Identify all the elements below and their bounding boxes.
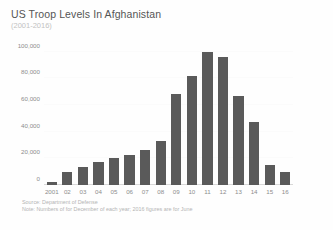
x-axis-tick-label: 08 <box>157 188 164 195</box>
bar-slot: 10 <box>184 45 200 185</box>
x-axis-tick-label: 13 <box>235 188 242 195</box>
x-axis-tick-label: 07 <box>142 188 149 195</box>
footnotes: Source: Department of Defense Note: Numb… <box>22 199 193 214</box>
bar-slot: 07 <box>137 45 153 185</box>
x-axis-tick-label: 14 <box>251 188 258 195</box>
bar-slot: 12 <box>215 45 231 185</box>
bar <box>171 94 181 185</box>
method-note: Note: Numbers of for December of each ye… <box>22 206 193 213</box>
bar-slot: 11 <box>200 45 216 185</box>
bar-slot: 15 <box>262 45 278 185</box>
x-axis-tick-label: 09 <box>173 188 180 195</box>
x-axis-tick-label: 02 <box>64 188 71 195</box>
y-axis-tick-label: 100,000 <box>18 41 40 48</box>
y-axis-tick-label: 80,000 <box>21 68 40 75</box>
bar <box>218 57 228 185</box>
x-axis-tick-label: 10 <box>188 188 195 195</box>
y-axis-tick-label: 20,000 <box>21 148 40 155</box>
chart-subtitle: (2001-2016) <box>11 21 52 30</box>
y-axis-tick-label: 60,000 <box>21 95 40 102</box>
bar-slot: 06 <box>122 45 138 185</box>
x-axis-tick-label: 04 <box>95 188 102 195</box>
bar-slot: 08 <box>153 45 169 185</box>
bar-slot: 2001 <box>44 45 60 185</box>
bar-series: 2001020304050607080910111213141516 <box>44 45 293 185</box>
bar <box>202 52 212 185</box>
y-axis-tick-label: 0 <box>37 175 40 182</box>
bar <box>93 162 103 185</box>
x-axis-tick-label: 11 <box>204 188 210 195</box>
bar <box>78 167 88 185</box>
bar <box>265 165 275 185</box>
bar <box>156 141 166 185</box>
bar-slot: 09 <box>169 45 185 185</box>
bar <box>124 155 134 185</box>
x-axis-tick-label: 06 <box>126 188 133 195</box>
bar <box>47 182 57 185</box>
plot-area: 020,00040,00060,00080,000100,000 2001020… <box>44 45 293 185</box>
bar <box>249 122 259 185</box>
x-axis-tick-label: 05 <box>111 188 118 195</box>
x-axis-tick-label: 15 <box>266 188 273 195</box>
x-axis-tick-label: 16 <box>282 188 289 195</box>
source-note: Source: Department of Defense <box>22 199 193 206</box>
x-axis-tick-label: 2001 <box>45 188 59 195</box>
x-axis-tick-label: 03 <box>79 188 86 195</box>
bar <box>280 172 290 185</box>
bar-slot: 16 <box>277 45 293 185</box>
bar-slot: 13 <box>231 45 247 185</box>
bar-slot: 05 <box>106 45 122 185</box>
chart-title: US Troop Levels In Afghanistan <box>11 8 161 20</box>
bar <box>233 96 243 185</box>
chart-figure: US Troop Levels In Afghanistan (2001-201… <box>0 0 333 230</box>
bar-slot: 04 <box>91 45 107 185</box>
x-axis-tick-label: 12 <box>220 188 227 195</box>
bar <box>140 150 150 185</box>
bar-slot: 02 <box>60 45 76 185</box>
bar-slot: 03 <box>75 45 91 185</box>
bar-slot: 14 <box>246 45 262 185</box>
bar <box>187 76 197 185</box>
bar <box>62 172 72 185</box>
bar <box>109 158 119 185</box>
y-axis-tick-label: 40,000 <box>21 121 40 128</box>
